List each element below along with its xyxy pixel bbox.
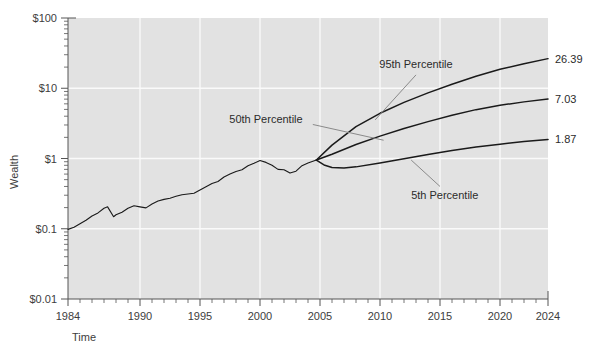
percentile-annotation: 5th Percentile — [411, 189, 478, 201]
x-tick-label: 2000 — [248, 310, 272, 322]
x-tick-label: 1995 — [188, 310, 212, 322]
x-tick-label: 2010 — [368, 310, 392, 322]
y-tick-label: $10 — [39, 82, 57, 94]
x-tick-label: 1990 — [128, 310, 152, 322]
y-tick-label: $0.01 — [29, 293, 57, 305]
y-tick-label: $1 — [45, 153, 57, 165]
y-tick-label: $0.1 — [36, 223, 57, 235]
wealth-projection-chart: $100$10$1$0.1$0.011984199019952000200520… — [0, 0, 595, 351]
percentile-annotation: 50th Percentile — [229, 113, 302, 125]
percentile-annotation: 95th Percentile — [379, 58, 452, 70]
x-tick-label: 1984 — [56, 310, 80, 322]
y-tick-label: $100 — [33, 12, 57, 24]
x-tick-label: 2020 — [488, 310, 512, 322]
series-endpoint-value: 26.39 — [555, 53, 583, 65]
x-tick-label: 2024 — [536, 310, 560, 322]
y-axis-title: Wealth — [8, 155, 20, 189]
chart-figure: $100$10$1$0.1$0.011984199019952000200520… — [0, 0, 595, 351]
x-tick-label: 2005 — [308, 310, 332, 322]
series-endpoint-value: 7.03 — [555, 93, 576, 105]
series-endpoint-value: 1.87 — [555, 133, 576, 145]
x-tick-label: 2015 — [428, 310, 452, 322]
x-axis-title: Time — [72, 331, 96, 343]
